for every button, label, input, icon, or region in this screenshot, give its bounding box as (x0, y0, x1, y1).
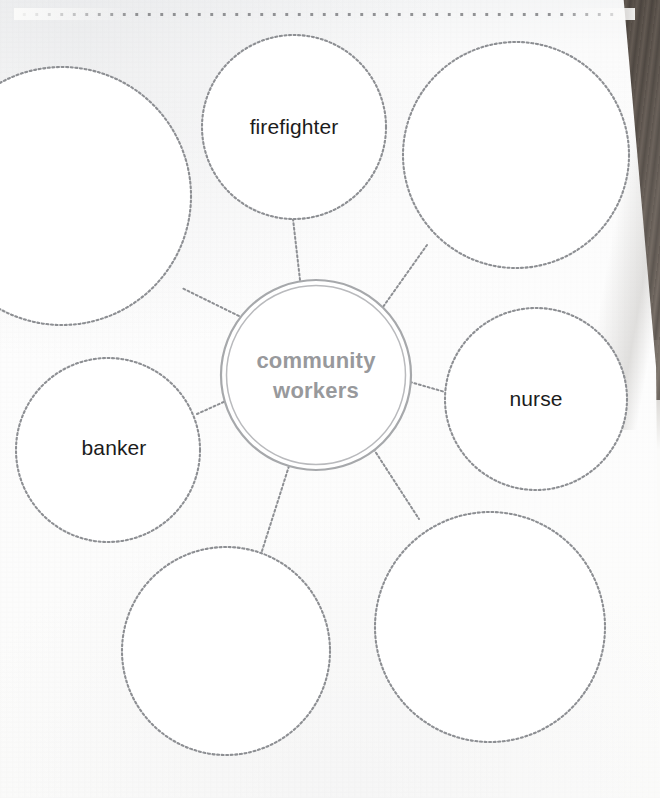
hub-label-line1: community (256, 348, 376, 373)
spoke-hub-to-bottom-left (262, 466, 289, 551)
bubble-bottom-right[interactable] (375, 512, 605, 742)
spoke-hub-to-bottom-right (371, 445, 419, 519)
spoke-hub-to-top-left (182, 288, 243, 318)
bubble-map-diagram: firefighter nurse banker community worke… (0, 0, 660, 798)
worksheet-screenshot: firefighter nurse banker community worke… (0, 0, 660, 798)
bubble-bottom-left[interactable] (122, 547, 330, 755)
bubble-top-right[interactable] (403, 42, 629, 268)
hub-circle[interactable] (221, 280, 411, 470)
bubble-label-firefighter: firefighter (250, 115, 339, 138)
spoke-hub-to-banker (197, 400, 228, 414)
spoke-hub-to-nurse (410, 382, 445, 392)
bubble-label-banker: banker (82, 436, 147, 459)
bubble-top-left[interactable] (0, 67, 191, 325)
bubble-label-nurse: nurse (509, 387, 562, 410)
hub-label-line2: workers (272, 378, 359, 403)
spoke-hub-to-top-right (378, 245, 427, 314)
spoke-hub-to-firefighter (293, 219, 300, 280)
